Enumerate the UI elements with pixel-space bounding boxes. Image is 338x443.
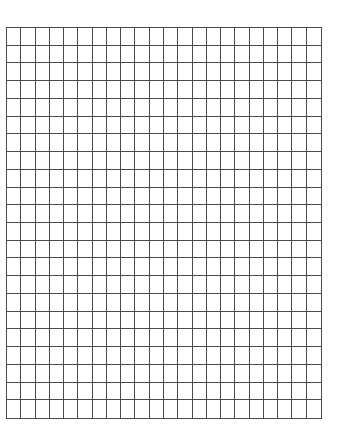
grid-cell — [64, 117, 78, 135]
grid-cell — [292, 312, 306, 330]
grid-cell — [250, 46, 264, 64]
grid-cell — [235, 294, 249, 312]
grid-cell — [207, 258, 221, 276]
grid-cell — [64, 152, 78, 170]
grid-cell — [107, 347, 121, 365]
grid-cell — [221, 223, 235, 241]
grid-cell — [36, 329, 50, 347]
grid-cell — [207, 400, 221, 418]
grid-cell — [235, 63, 249, 81]
grid-cell — [307, 81, 321, 99]
grid-cell — [193, 241, 207, 259]
grid-cell — [135, 312, 149, 330]
grid-cell — [193, 188, 207, 206]
grid-cell — [207, 188, 221, 206]
grid-cell — [221, 46, 235, 64]
grid-cell — [235, 152, 249, 170]
grid-cell — [250, 188, 264, 206]
grid-cell — [36, 400, 50, 418]
grid-cell — [135, 223, 149, 241]
grid-cell — [235, 329, 249, 347]
grid-cell — [164, 258, 178, 276]
grid-cell — [64, 205, 78, 223]
grid-cell — [21, 347, 35, 365]
grid-cell — [207, 99, 221, 117]
grid-cell — [7, 383, 21, 401]
grid-cell — [221, 205, 235, 223]
grid-cell — [278, 188, 292, 206]
grid-cell — [107, 81, 121, 99]
grid-cell — [264, 312, 278, 330]
grid-cell — [93, 134, 107, 152]
grid-cell — [121, 152, 135, 170]
grid-cell — [21, 312, 35, 330]
grid-cell — [7, 365, 21, 383]
grid-cell — [193, 117, 207, 135]
grid-cell — [264, 46, 278, 64]
grid-cell — [121, 223, 135, 241]
grid-cell — [64, 81, 78, 99]
grid-cell — [121, 383, 135, 401]
grid-cell — [178, 294, 192, 312]
grid-cell — [307, 383, 321, 401]
grid-cell — [121, 294, 135, 312]
grid-cell — [150, 81, 164, 99]
grid-cell — [64, 170, 78, 188]
grid-cell — [64, 188, 78, 206]
grid-cell — [193, 152, 207, 170]
grid-cell — [178, 170, 192, 188]
grid-cell — [193, 258, 207, 276]
grid-cell — [107, 63, 121, 81]
grid-cell — [107, 241, 121, 259]
grid-cell — [307, 241, 321, 259]
grid-cell — [164, 241, 178, 259]
grid-cell — [264, 170, 278, 188]
grid-cell — [207, 134, 221, 152]
grid-cell — [78, 152, 92, 170]
grid-cell — [93, 170, 107, 188]
grid-cell — [64, 223, 78, 241]
grid-cell — [307, 134, 321, 152]
grid-cell — [221, 117, 235, 135]
grid-cell — [250, 117, 264, 135]
grid-cell — [107, 276, 121, 294]
grid-cell — [36, 46, 50, 64]
grid-cell — [278, 294, 292, 312]
grid-cell — [178, 258, 192, 276]
grid-cell — [207, 347, 221, 365]
grid-cell — [36, 312, 50, 330]
grid-cell — [193, 63, 207, 81]
grid-cell — [107, 205, 121, 223]
grid-cell — [178, 81, 192, 99]
grid-cell — [93, 81, 107, 99]
grid-cell — [235, 134, 249, 152]
grid-cell — [164, 312, 178, 330]
grid-cell — [150, 134, 164, 152]
grid-cell — [264, 365, 278, 383]
grid-cell — [250, 223, 264, 241]
grid-cell — [21, 258, 35, 276]
grid-cell — [235, 400, 249, 418]
grid-cell — [135, 188, 149, 206]
grid-cell — [150, 63, 164, 81]
grid-cell — [292, 117, 306, 135]
grid-cell — [135, 63, 149, 81]
grid-cell — [93, 205, 107, 223]
grid-cell — [292, 134, 306, 152]
grid-cell — [78, 276, 92, 294]
grid-cell — [93, 28, 107, 46]
grid-cell — [64, 276, 78, 294]
grid-cell — [221, 294, 235, 312]
grid-cell — [107, 134, 121, 152]
grid-cell — [135, 276, 149, 294]
grid-cell — [264, 223, 278, 241]
grid-cell — [121, 241, 135, 259]
grid-cell — [135, 400, 149, 418]
grid-cell — [64, 46, 78, 64]
grid-cell — [64, 312, 78, 330]
grid-cell — [292, 81, 306, 99]
grid-cell — [221, 400, 235, 418]
grid-cell — [292, 294, 306, 312]
grid-cell — [21, 383, 35, 401]
grid-cell — [107, 329, 121, 347]
